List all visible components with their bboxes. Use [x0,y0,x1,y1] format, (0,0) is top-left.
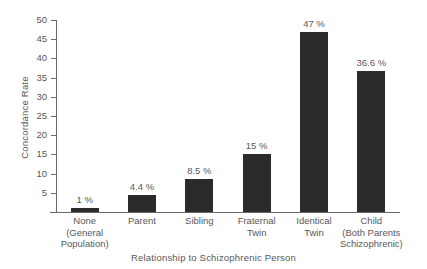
bar-value-label: 4.4 % [130,181,154,192]
y-tick-label: 15 [27,148,47,159]
bar [300,32,328,212]
bar-value-label: 15 % [246,140,268,151]
bar-chart: Concordance Rate 5101520253035404550 1 %… [0,0,427,269]
y-tick-label: 50 [27,14,47,25]
bar-value-label: 8.5 % [187,165,211,176]
x-category-label: Child (Both Parents Schizophrenic) [331,215,412,250]
x-axis-title: Relationship to Schizophrenic Person [0,252,427,263]
bar-slot: 4.4 % [113,20,170,212]
bar-slot: 36.6 % [343,20,400,212]
y-tick-label: 20 [27,129,47,140]
x-axis-line [50,212,400,213]
y-tick [51,212,57,213]
y-tick-label: 45 [27,33,47,44]
bar [128,195,156,212]
bar-value-label: 47 % [303,18,325,29]
bar [243,154,271,212]
y-tick-label: 25 [27,110,47,121]
bar [357,71,385,212]
plot-area: 5101520253035404550 1 %4.4 %8.5 %15 %47 … [56,20,400,212]
y-tick-label: 40 [27,52,47,63]
y-tick-label: 5 [27,187,47,198]
bar-slot: 1 % [56,20,113,212]
bar [71,208,99,212]
bar-value-label: 1 % [76,194,92,205]
y-tick-label: 35 [27,72,47,83]
bar-slot: 47 % [285,20,342,212]
bar-slot: 8.5 % [171,20,228,212]
bar-slot: 15 % [228,20,285,212]
bar [185,179,213,212]
bar-value-label: 36.6 % [357,57,387,68]
y-tick-label: 30 [27,91,47,102]
y-tick-label: 10 [27,168,47,179]
